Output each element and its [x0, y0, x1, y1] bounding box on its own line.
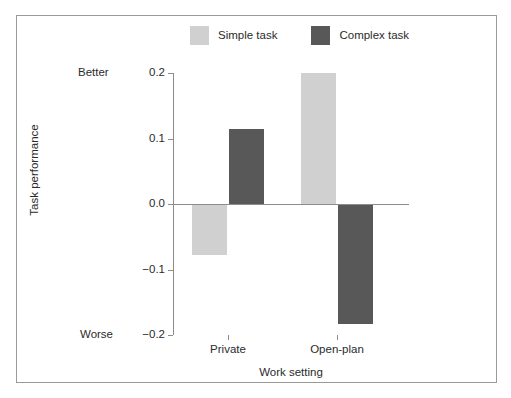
bar-private-simple-task: [192, 204, 227, 255]
y-axis-title: Task performance: [28, 90, 40, 250]
plot-area: 0.2 0.1 0.0 −0.1 −0.2 Better Worse Task …: [0, 0, 511, 398]
y-tick-row: 0.0: [125, 204, 173, 205]
bar-open-plan-complex-task: [338, 204, 373, 324]
y-tick-row: 0.1: [125, 139, 173, 140]
chart-figure: Simple task Complex task 0.2 0.1 0.0: [0, 0, 511, 398]
y-tick-row: −0.1: [125, 270, 173, 271]
y-tick-label: 0.1: [131, 133, 165, 145]
bar-private-complex-task: [229, 129, 264, 204]
y-axis-bottom-annotation: Worse: [80, 329, 113, 341]
y-tick-label: −0.1: [131, 264, 165, 276]
x-axis-title: Work setting: [173, 366, 409, 378]
y-tick-label: −0.2: [131, 329, 165, 341]
y-axis-top-annotation: Better: [78, 67, 109, 79]
x-tick-mark: [228, 335, 229, 340]
y-tick-row: 0.2: [125, 73, 173, 74]
x-category-label-open-plan: Open-plan: [282, 344, 392, 356]
y-tick-label: 0.0: [131, 198, 165, 210]
x-axis-zero-line: [173, 204, 409, 205]
y-tick-label: 0.2: [131, 67, 165, 79]
x-category-label-private: Private: [173, 344, 283, 356]
bar-open-plan-simple-task: [301, 73, 336, 204]
x-tick-mark: [337, 335, 338, 340]
y-tick-row: −0.2: [125, 335, 173, 336]
